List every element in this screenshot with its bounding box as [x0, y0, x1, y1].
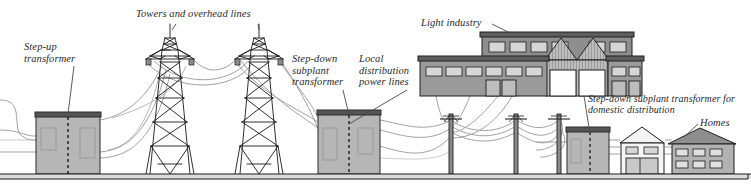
home	[668, 128, 736, 174]
label-light-industry: Light industry	[421, 17, 482, 29]
label-step-up-transformer: Step-up transformer	[24, 41, 75, 64]
transmission-tower-right	[235, 24, 283, 174]
diagram-canvas: Step-up transformer Towers and overhead …	[0, 0, 751, 189]
leader-tower-left	[172, 24, 176, 30]
span-tower1-left-extras	[108, 66, 186, 150]
local-distribution-wires	[380, 120, 451, 153]
label-domestic-transformer: Step-down subplant transformer for domes…	[588, 93, 735, 115]
label-local-distribution: Local distribution power lines	[359, 53, 409, 88]
label-homes: Homes	[700, 117, 730, 129]
domestic-step-down-transformer	[566, 127, 610, 174]
home-with-garage	[620, 127, 664, 174]
step-down-subplant-transformer	[317, 110, 381, 174]
utility-pole-2	[505, 114, 527, 174]
leader-step-up	[68, 66, 74, 114]
transmission-tower-left	[146, 24, 194, 174]
plant-feed-wires	[0, 100, 36, 152]
factory-feed-wires	[436, 96, 512, 138]
utility-pole-1	[440, 114, 462, 174]
label-towers-overhead-lines: Towers and overhead lines	[136, 8, 251, 20]
ground-line	[0, 174, 751, 179]
step-up-transformer	[35, 112, 101, 174]
light-industry-building	[418, 32, 644, 96]
label-step-down-subplant: Step-down subplant transformer	[292, 53, 343, 88]
pole-span-2	[516, 120, 559, 143]
